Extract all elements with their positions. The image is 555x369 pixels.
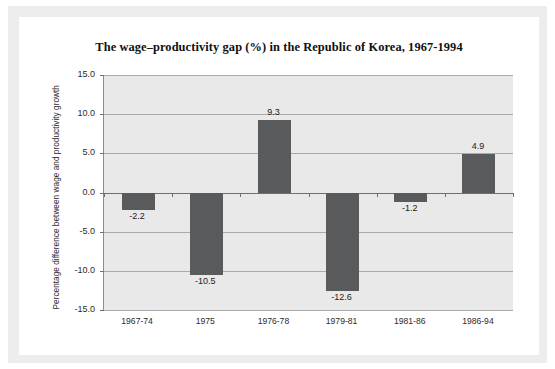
bar: [258, 120, 291, 193]
bar: [326, 193, 359, 291]
gridline: [104, 153, 513, 154]
x-axis-tick: [172, 193, 173, 197]
gridline: [104, 271, 513, 272]
y-axis-tick-label: 10.0: [49, 108, 95, 118]
y-axis-tick-label: 15.0: [49, 69, 95, 79]
y-axis-tick-label: -15.0: [49, 304, 95, 314]
y-axis-tick-label: 5.0: [49, 147, 95, 157]
gridline: [104, 310, 513, 311]
x-axis-tick-label: 1986-94: [438, 316, 518, 326]
bar: [462, 154, 495, 193]
gridline: [104, 75, 513, 76]
x-axis-tick: [104, 193, 105, 197]
y-axis-tick: [100, 232, 104, 233]
bar-value-label: 4.9: [448, 141, 508, 151]
y-axis-tick: [100, 271, 104, 272]
x-axis-tick: [445, 193, 446, 197]
y-axis-tick: [100, 114, 104, 115]
bar-value-label: -1.2: [380, 203, 440, 213]
chart-title: The wage–productivity gap (%) in the Rep…: [19, 40, 539, 55]
y-axis-tick: [100, 153, 104, 154]
bar-value-label: 9.3: [243, 107, 303, 117]
y-axis-tick-label: -10.0: [49, 265, 95, 275]
x-axis-tick: [240, 193, 241, 197]
gridline: [104, 114, 513, 115]
bar: [122, 193, 155, 210]
x-axis-tick: [513, 193, 514, 197]
y-axis-tick-label: -5.0: [49, 226, 95, 236]
y-axis-tick-label: 0.0: [49, 187, 95, 197]
x-axis-tick: [309, 193, 310, 197]
bar: [394, 193, 427, 202]
x-axis-tick: [377, 193, 378, 197]
bar-value-label: -2.2: [107, 211, 167, 221]
gridline: [104, 232, 513, 233]
bar: [190, 193, 223, 275]
scanned-page: The wage–productivity gap (%) in the Rep…: [0, 0, 555, 369]
bar-value-label: -10.5: [175, 276, 235, 286]
y-axis-tick: [100, 310, 104, 311]
bar-value-label: -12.6: [312, 292, 372, 302]
plot-area: [103, 75, 513, 310]
y-axis-tick: [100, 75, 104, 76]
